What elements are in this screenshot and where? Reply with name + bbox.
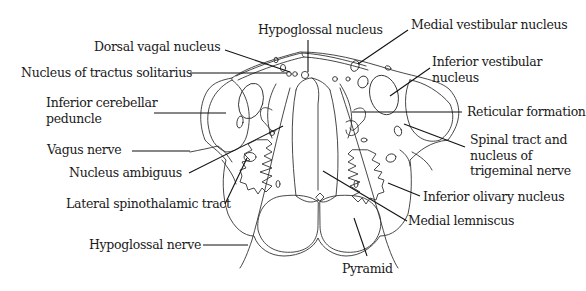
left-inferior-olive — [240, 140, 272, 194]
label-line: trigeminal nerve — [470, 163, 571, 179]
label-dorsal-vagal-nucleus: Dorsal vagal nucleus — [94, 39, 220, 55]
label-line: Inferior vestibular — [432, 54, 542, 70]
label-reticular-formation: Reticular formation — [467, 104, 586, 120]
label-inferior-cerebellar-peduncle: Inferior cerebellar peduncle — [46, 95, 157, 127]
label-inferior-olivary-nucleus: Inferior olivary nucleus — [423, 189, 564, 205]
label-line: peduncle — [46, 111, 157, 127]
label-pyramid: Pyramid — [342, 261, 393, 277]
left-inferior-cerebellar-peduncle — [208, 80, 249, 152]
right-inferior-cerebellar-peduncle — [406, 80, 453, 141]
label-line: Inferior cerebellar — [46, 95, 157, 111]
left-pyramid — [258, 195, 318, 252]
leader-dorsal-vagal — [225, 50, 290, 72]
leader-inferior-olivary — [388, 183, 420, 196]
right-pyramid — [320, 195, 381, 252]
leader-inferior-vestibular — [390, 68, 430, 96]
label-line: nucleus of — [470, 148, 571, 164]
label-nucleus-ambiguus: Nucleus ambiguus — [69, 165, 182, 181]
label-hypoglossal-nucleus: Hypoglossal nucleus — [258, 22, 383, 38]
label-line: Spinal tract and — [470, 132, 571, 148]
label-medial-lemniscus: Medial lemniscus — [408, 213, 514, 229]
label-vagus-nerve: Vagus nerve — [47, 142, 121, 158]
label-inferior-vestibular-nucleus: Inferior vestibular nucleus — [432, 54, 542, 86]
label-spinal-trigeminal: Spinal tract and nucleus of trigeminal n… — [470, 132, 571, 179]
label-medial-vestibular-nucleus: Medial vestibular nucleus — [411, 17, 567, 33]
label-lateral-spinothalamic-tract: Lateral spinothalamic tract — [66, 196, 231, 212]
label-nucleus-tractus-solitarius: Nucleus of tractus solitarius — [21, 65, 192, 81]
label-line: nucleus — [432, 70, 542, 86]
label-hypoglossal-nerve: Hypoglossal nerve — [89, 237, 201, 253]
